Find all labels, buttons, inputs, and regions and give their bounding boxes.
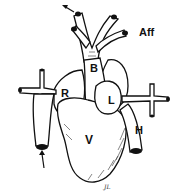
left-veins	[18, 69, 56, 169]
label-ventricle: V	[85, 133, 93, 147]
label-afferent: Aff	[139, 26, 155, 38]
signature: JL	[102, 183, 110, 191]
afferent-vessels	[62, 5, 128, 64]
heart-diagram: B R L V H Aff JL	[0, 0, 180, 194]
label-hepatic: H	[135, 124, 143, 136]
label-bulb: B	[90, 62, 98, 74]
label-left-atrium: L	[108, 94, 115, 106]
label-right-atrium: R	[61, 87, 69, 99]
